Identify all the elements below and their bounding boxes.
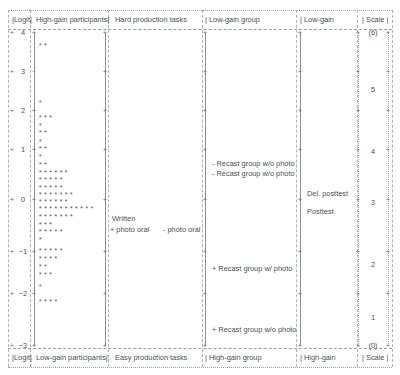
footer-cell-5: | Scale | xyxy=(362,354,388,366)
axis-tick-r6-c2: + xyxy=(103,290,107,298)
item-label-6: Posttest xyxy=(307,208,334,215)
axis-rail-3 xyxy=(300,33,301,346)
axis-tick-r7-c2: + xyxy=(103,342,107,350)
axis-rail-2 xyxy=(205,33,206,346)
axis-tick-r2-c0: + xyxy=(10,107,14,115)
axis-tick-r3-c4: + xyxy=(298,146,302,154)
person-row-23: * xyxy=(38,284,43,292)
axis-tick-r1-c6: + xyxy=(386,68,390,76)
axis-tick-r6-c5: + xyxy=(356,290,360,298)
logit-tick-label-6: −2 xyxy=(19,290,27,297)
axis-rail-4 xyxy=(358,33,359,346)
scale-tick-label-5: 1 xyxy=(371,314,375,321)
axis-tick-r0-c6: + xyxy=(386,29,390,37)
axis-tick-r1-c2: + xyxy=(103,68,107,76)
axis-tick-r6-c0: + xyxy=(10,290,14,298)
axis-tick-r4-c0: + xyxy=(10,196,14,204)
axis-tick-r7-c4: + xyxy=(298,342,302,350)
logit-tick-label-7: −3 xyxy=(19,342,27,349)
axis-tick-r2-c6: + xyxy=(386,107,390,115)
column-separator-0 xyxy=(8,10,9,367)
item-label-5: Del. posttest xyxy=(307,190,348,197)
column-separator-6 xyxy=(392,10,393,367)
axis-tick-r7-c1: + xyxy=(32,342,36,350)
scale-tick-label-4: 2 xyxy=(371,261,375,268)
axis-tick-r0-c1: + xyxy=(32,29,36,37)
axis-tick-r5-c2: + xyxy=(103,248,107,256)
axis-tick-r1-c1: + xyxy=(32,68,36,76)
axis-tick-r6-c3: + xyxy=(203,290,207,298)
axis-tick-r5-c4: + xyxy=(298,248,302,256)
axis-tick-r2-c1: + xyxy=(32,107,36,115)
axis-tick-r5-c5: + xyxy=(356,248,360,256)
item-label-8: + Recast group w/o photo xyxy=(212,326,296,333)
item-label-0: - Recast group w/o photo xyxy=(212,160,295,167)
person-row-1: * xyxy=(38,100,43,108)
header-divider-rule xyxy=(8,29,392,30)
axis-tick-r4-c4: + xyxy=(298,196,302,204)
person-row-24: **** xyxy=(38,299,59,307)
logit-tick-label-1: 3 xyxy=(21,68,25,75)
axis-tick-r0-c0: + xyxy=(10,29,14,37)
axis-tick-r6-c1: + xyxy=(32,290,36,298)
column-separator-2 xyxy=(108,10,109,367)
axis-tick-r1-c5: + xyxy=(356,68,360,76)
axis-tick-r7-c0: + xyxy=(10,342,14,350)
logit-tick-label-5: −1 xyxy=(19,248,27,255)
wright-map: ++++++++++++++++++++++++++++++++++++++++… xyxy=(0,0,400,375)
axis-tick-r7-c3: + xyxy=(203,342,207,350)
axis-tick-r6-c4: + xyxy=(298,290,302,298)
person-row-18: * xyxy=(38,237,43,245)
axis-tick-r1-c4: + xyxy=(298,68,302,76)
axis-tick-r0-c2: + xyxy=(103,29,107,37)
axis-tick-r3-c0: + xyxy=(10,146,14,154)
axis-tick-r0-c5: + xyxy=(356,29,360,37)
axis-tick-r4-c6: + xyxy=(386,196,390,204)
axis-tick-r1-c0: + xyxy=(10,68,14,76)
logit-tick-label-4: 0 xyxy=(21,196,25,203)
top-border-rule xyxy=(8,10,392,11)
footer-cell-0: |Logit| xyxy=(12,354,32,366)
axis-tick-r2-c5: + xyxy=(356,107,360,115)
axis-tick-r2-c2: + xyxy=(103,107,107,115)
bottom-border-rule xyxy=(8,367,392,368)
scale-tick-label-1: 5 xyxy=(371,86,375,93)
column-separator-3 xyxy=(202,10,203,367)
scale-tick-label-3: 3 xyxy=(371,199,375,206)
axis-tick-r3-c6: + xyxy=(386,146,390,154)
axis-tick-r5-c0: + xyxy=(10,248,14,256)
axis-tick-r7-c5: + xyxy=(356,342,360,350)
column-separator-1 xyxy=(30,10,31,367)
axis-rail-1 xyxy=(105,33,106,346)
axis-tick-r4-c1: + xyxy=(32,196,36,204)
item-label-4: - photo oral xyxy=(163,226,200,233)
axis-tick-r4-c5: + xyxy=(356,196,360,204)
axis-tick-r3-c3: + xyxy=(203,146,207,154)
person-row-22: *** xyxy=(38,272,53,280)
footer-divider-rule xyxy=(8,348,392,349)
axis-tick-r4-c3: + xyxy=(203,196,207,204)
footer-cell-1: Low-gain participants| xyxy=(36,354,108,366)
axis-tick-r5-c3: + xyxy=(203,248,207,256)
column-separator-4 xyxy=(296,10,297,367)
axis-tick-r6-c6: + xyxy=(386,290,390,298)
item-label-1: - Recast group w/o photo xyxy=(212,170,295,177)
logit-tick-label-0: 4 xyxy=(21,29,25,36)
item-label-2: Written xyxy=(112,215,135,222)
axis-tick-r5-c1: + xyxy=(32,248,36,256)
axis-tick-r1-c3: + xyxy=(203,68,207,76)
axis-rail-5 xyxy=(388,33,389,346)
axis-tick-r3-c1: + xyxy=(32,146,36,154)
header-cell-3: | Low-gain group xyxy=(205,16,260,28)
axis-tick-r4-c2: + xyxy=(103,196,107,204)
footer-cell-4: | High-gain xyxy=(300,354,336,366)
header-cell-2: Hard production tasks xyxy=(115,16,187,28)
person-row-4: ** xyxy=(38,130,48,138)
axis-tick-r7-c6: + xyxy=(386,342,390,350)
axis-tick-r2-c4: + xyxy=(298,107,302,115)
header-cell-4: | Low-gain xyxy=(300,16,334,28)
axis-tick-r3-c2: + xyxy=(103,146,107,154)
axis-tick-r5-c6: + xyxy=(386,248,390,256)
axis-tick-r0-c3: + xyxy=(203,29,207,37)
footer-cell-3: | High-gain group xyxy=(205,354,262,366)
